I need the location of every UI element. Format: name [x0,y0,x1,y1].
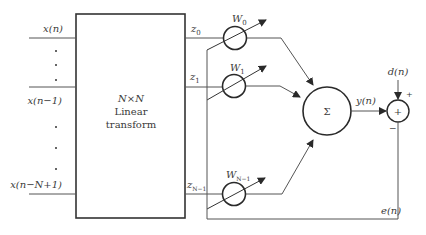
output-label-z0: z0 [190,23,201,37]
comparator-plus-sign: + [406,90,413,99]
sigma-symbol: Σ [323,106,330,117]
weight-label-wN-1: WN−1 [226,169,250,182]
output-label-z1: z1 [189,71,200,85]
weight-w1 [223,75,246,98]
comparator-symbol: + [394,106,402,117]
output-label-y: y(n) [355,95,376,106]
transform-size-label: N×N [117,93,145,104]
weight-w0 [224,27,247,50]
transform-label-linear: Linear [115,106,148,117]
input-label-x-n-N-1: x(n−N+1) [10,179,62,190]
desired-label-d: d(n) [388,66,409,77]
z-lines [185,38,224,194]
output-label-zN-1: zN−1 [186,179,206,192]
error-label-e: e(n) [381,205,401,216]
weight-wN-1 [223,183,246,206]
input-lines [29,38,76,194]
input-label-x-n: x(n) [43,23,63,34]
input-label-x-n-1: x(n−1) [27,95,62,106]
weight-label-w0: W0 [232,13,247,27]
ellipsis-dots [55,50,57,170]
adaptive-filter-diagram: N×N Linear transform x(n) x(n−1) x(n−N+1… [0,0,426,235]
comparator-minus-sign: − [389,123,397,133]
transform-label-transform: transform [106,119,157,130]
